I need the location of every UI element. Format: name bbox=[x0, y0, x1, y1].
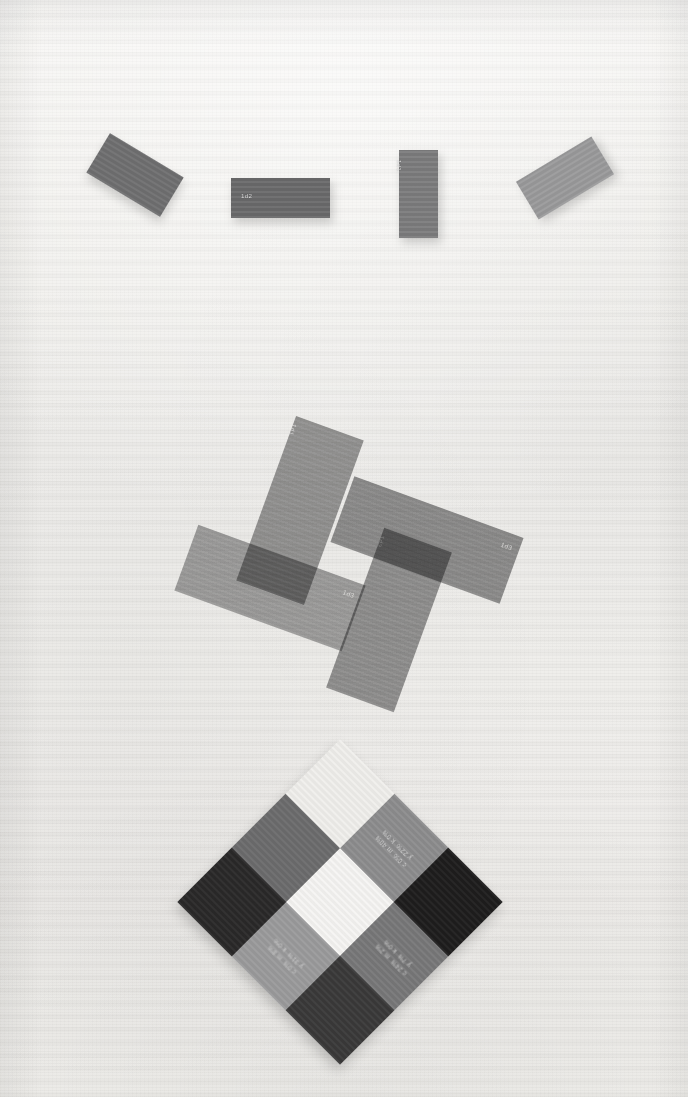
cmyk-label: c 0%m 40%y 22%k 0% bbox=[372, 826, 416, 870]
chart-stage: 1d21d1 1d11d31d21d3 c 0%m 40%y 22%k 0%c … bbox=[0, 0, 688, 1097]
blade-tag: 1d3 bbox=[342, 588, 356, 599]
blade-tag: 1d3 bbox=[500, 541, 514, 552]
cmyk-label: c 0%m 8%y 31%k 0% bbox=[264, 935, 307, 978]
blade-tag: 1d1 bbox=[287, 422, 298, 436]
cmyk-label: c 24%m 2%y 7%k 0% bbox=[372, 934, 416, 978]
